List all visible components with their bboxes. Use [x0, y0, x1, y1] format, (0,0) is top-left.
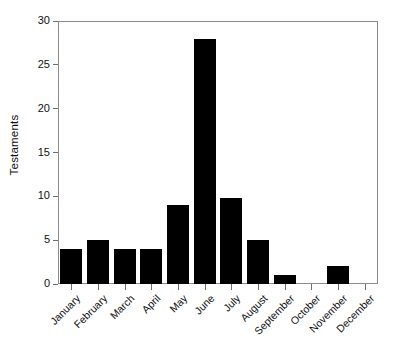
x-axis-tick-label-text: March [107, 292, 136, 321]
x-axis-tick-mark [338, 284, 339, 290]
bar-july [220, 198, 242, 284]
x-axis-tick-label-text: October [288, 292, 323, 327]
x-axis-tick-label-text: August [238, 292, 270, 324]
y-axis-title: Testaments [0, 0, 28, 290]
bar-august [247, 240, 269, 284]
x-axis-tick-label-text: January [48, 292, 83, 327]
x-axis-tick-mark [98, 284, 99, 290]
x-axis-tick-label-text: September [251, 292, 296, 337]
x-axis-tick-label-text: February [71, 292, 109, 330]
bar-may [167, 205, 189, 284]
x-axis-tick-mark [125, 284, 126, 290]
x-axis-tick-mark [365, 284, 366, 290]
x-axis-tick-mark [151, 284, 152, 290]
x-axis-tick-label-text: December [333, 292, 376, 335]
y-axis-tick-label: 0 [44, 277, 50, 289]
x-axis-tick-label-text: April [139, 292, 162, 315]
y-axis-tick-label: 15 [38, 146, 50, 158]
x-axis-tick-mark [231, 284, 232, 290]
y-axis-tick-label: 5 [44, 233, 50, 245]
bar-april [140, 249, 162, 284]
bar-november [327, 266, 349, 284]
x-axis-tick-mark [178, 284, 179, 290]
x-axis-tick-label-text: July [221, 292, 243, 314]
y-axis-tick-label: 30 [38, 14, 50, 26]
bar-january [60, 249, 82, 284]
x-axis-tick-mark [71, 284, 72, 290]
bar-february [87, 240, 109, 284]
y-axis-tick-label: 20 [38, 102, 50, 114]
x-axis-tick-label-text: June [192, 292, 217, 317]
bar-chart: Testaments 051015202530 JanuaryFebruaryM… [0, 0, 411, 344]
y-axis-tick-label: 10 [38, 189, 50, 201]
bar-september [274, 275, 296, 284]
x-axis-tick-label-text: May [167, 292, 190, 315]
x-axis-tick-label-text: November [307, 292, 350, 335]
bar-june [194, 39, 216, 284]
x-axis-tick-mark [258, 284, 259, 290]
y-axis-tick-label: 25 [38, 58, 50, 70]
x-axis-tick-mark [205, 284, 206, 290]
x-axis-tick-mark [285, 284, 286, 290]
bar-march [114, 249, 136, 284]
y-axis-title-text: Testaments [8, 115, 20, 176]
x-axis-tick-mark [311, 284, 312, 290]
bars-layer [58, 21, 378, 284]
